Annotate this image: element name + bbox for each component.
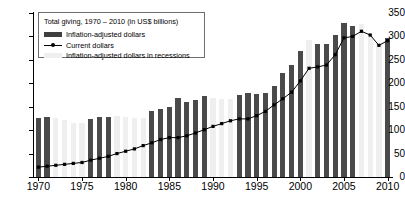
x-tick-mark-1995 [257, 177, 258, 181]
line-marker-2003 [325, 63, 328, 66]
x-tick-label-1980: 1980 [109, 180, 143, 192]
y-tick-mark-300 [29, 36, 33, 37]
x-tick-label-1975: 1975 [65, 180, 99, 192]
legend-items: Inflation-adjusted dollarsCurrent dollar… [44, 30, 199, 60]
legend-label-0: Inflation-adjusted dollars [66, 30, 145, 39]
x-tick-mark-1980 [126, 177, 127, 181]
y-tick-mark-250 [29, 60, 33, 61]
line-marker-1979 [115, 152, 118, 155]
y-tick-label-100: 100 [379, 125, 405, 135]
line-marker-1975 [80, 161, 83, 164]
x-tick-mark-2005 [344, 177, 345, 181]
line-marker-1986 [176, 136, 179, 139]
line-marker-1987 [185, 134, 188, 137]
line-marker-1984 [159, 138, 162, 141]
y-tick-mark-150 [29, 107, 33, 108]
line-marker-1985 [168, 136, 171, 139]
line-marker-2004 [334, 53, 337, 56]
x-tick-label-1970: 1970 [21, 180, 55, 192]
line-marker-2007 [360, 30, 363, 33]
x-tick-mark-1990 [213, 177, 214, 181]
line-marker-1995 [255, 114, 258, 117]
line-marker-1981 [133, 147, 136, 150]
legend-item-0: Inflation-adjusted dollars [44, 30, 199, 39]
line-marker-2005 [342, 36, 345, 39]
chart-legend: Total giving, 1970 – 2010 (in US$ billio… [38, 12, 205, 58]
line-marker-2000 [299, 79, 302, 82]
line-marker-2008 [369, 33, 372, 36]
legend-label-1: Current dollars [66, 41, 114, 50]
legend-swatch-recession-icon [44, 53, 62, 58]
y-tick-label-250: 250 [379, 55, 405, 65]
line-marker-1978 [107, 155, 110, 158]
x-tick-mark-1985 [169, 177, 170, 181]
line-marker-1989 [203, 128, 206, 131]
legend-label-2: Inflation-adjusted dollars in recessions [66, 51, 190, 60]
line-marker-2001 [307, 67, 310, 70]
y-tick-mark-0 [29, 177, 33, 178]
x-tick-label-1990: 1990 [196, 180, 230, 192]
line-marker-1972 [54, 164, 57, 167]
legend-item-2: Inflation-adjusted dollars in recessions [44, 51, 199, 60]
x-tick-label-2010: 2010 [371, 180, 405, 192]
y-tick-label-350: 350 [379, 8, 405, 18]
y-tick-label-150: 150 [379, 102, 405, 112]
line-marker-1994 [246, 117, 249, 120]
line-marker-1980 [124, 150, 127, 153]
y-tick-mark-50 [29, 154, 33, 155]
legend-item-1: Current dollars [44, 41, 199, 50]
legend-swatch-line-icon [44, 43, 62, 48]
x-tick-label-1985: 1985 [152, 180, 186, 192]
x-tick-mark-2010 [388, 177, 389, 181]
y-tick-mark-350 [29, 13, 33, 14]
line-marker-1992 [229, 119, 232, 122]
y-tick-label-50: 50 [379, 149, 405, 159]
line-marker-1997 [273, 103, 276, 106]
legend-title: Total giving, 1970 – 2010 (in US$ billio… [44, 17, 199, 26]
line-marker-1991 [220, 122, 223, 125]
x-tick-label-2005: 2005 [327, 180, 361, 192]
y-axis [33, 12, 34, 178]
y-tick-label-300: 300 [379, 31, 405, 41]
line-marker-1971 [46, 165, 49, 168]
line-marker-2006 [351, 35, 354, 38]
line-marker-1976 [89, 159, 92, 162]
chart-container: 050100150200250300350 197019751980198519… [0, 0, 405, 206]
x-tick-label-2000: 2000 [283, 180, 317, 192]
y-tick-mark-200 [29, 83, 33, 84]
line-marker-1970 [37, 166, 40, 169]
line-marker-2002 [316, 65, 319, 68]
y-tick-label-200: 200 [379, 78, 405, 88]
line-marker-1996 [264, 110, 267, 113]
line-marker-1999 [290, 91, 293, 94]
line-marker-1993 [238, 117, 241, 120]
line-marker-1990 [211, 125, 214, 128]
legend-swatch-normal-icon [44, 32, 62, 37]
line-marker-2009 [377, 44, 380, 47]
x-tick-mark-1970 [38, 177, 39, 181]
x-tick-mark-2000 [300, 177, 301, 181]
y-tick-mark-100 [29, 130, 33, 131]
line-marker-1982 [142, 144, 145, 147]
line-marker-1977 [98, 157, 101, 160]
x-tick-label-1995: 1995 [240, 180, 274, 192]
x-tick-mark-1975 [82, 177, 83, 181]
line-marker-1988 [194, 131, 197, 134]
line-marker-1973 [63, 163, 66, 166]
line-marker-1998 [281, 97, 284, 100]
line-marker-1974 [72, 162, 75, 165]
line-marker-1983 [150, 141, 153, 144]
